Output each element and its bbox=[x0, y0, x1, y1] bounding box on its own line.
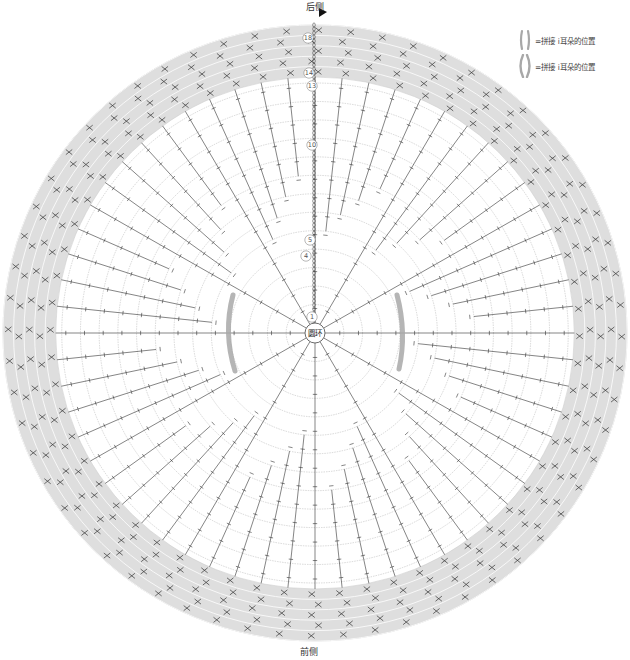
round-label-14: 14 bbox=[304, 68, 314, 78]
legend: =拼接 i耳朵的位置 =拼接 i耳朵的位置 bbox=[518, 28, 595, 80]
round-label-4: 4 bbox=[301, 251, 311, 261]
round-label-5: 5 bbox=[305, 235, 315, 245]
back-side-label: 后侧 bbox=[306, 0, 324, 13]
svg-text:14: 14 bbox=[305, 69, 313, 77]
svg-text:5: 5 bbox=[308, 236, 312, 244]
svg-text:4: 4 bbox=[304, 252, 308, 260]
crochet-chart: 14510131418 圆环 bbox=[0, 0, 630, 660]
round-label-10: 10 bbox=[307, 140, 317, 150]
ear-marker-narrow-icon bbox=[518, 29, 532, 51]
legend-row-narrow: =拼接 i耳朵的位置 bbox=[518, 28, 595, 52]
magic-ring: 圆环 bbox=[305, 323, 325, 343]
svg-text:18: 18 bbox=[304, 34, 312, 42]
legend-text-wide: =拼接 i耳朵的位置 bbox=[535, 61, 595, 72]
round-label-18: 18 bbox=[303, 33, 313, 43]
svg-text:13: 13 bbox=[308, 82, 316, 90]
front-side-label: 前侧 bbox=[300, 645, 318, 658]
legend-text-narrow: =拼接 i耳朵的位置 bbox=[535, 35, 595, 46]
svg-text:1: 1 bbox=[310, 313, 314, 321]
svg-text:10: 10 bbox=[308, 141, 316, 149]
legend-row-wide: =拼接 i耳朵的位置 bbox=[518, 54, 595, 78]
ear-marker-wide-icon bbox=[518, 54, 532, 78]
round-label-13: 13 bbox=[307, 81, 317, 91]
round-label-1: 1 bbox=[307, 312, 317, 322]
magic-ring-label: 圆环 bbox=[308, 329, 323, 338]
